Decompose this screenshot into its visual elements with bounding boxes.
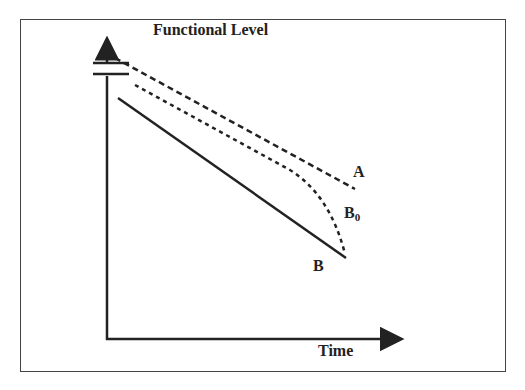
curve-a xyxy=(115,58,355,189)
curve-b0-label: B0 xyxy=(344,204,360,223)
curve-b0 xyxy=(135,85,345,254)
axis-break-icon xyxy=(93,63,129,76)
x-axis-label: Time xyxy=(318,342,353,360)
curve-b0-label-sub: 0 xyxy=(355,211,361,223)
curve-a-label: A xyxy=(353,163,365,181)
y-axis-label: Functional Level xyxy=(153,21,268,39)
curve-b-label: B xyxy=(313,257,324,275)
diagram-canvas xyxy=(0,0,525,390)
curve-b0-label-main: B xyxy=(344,204,355,221)
